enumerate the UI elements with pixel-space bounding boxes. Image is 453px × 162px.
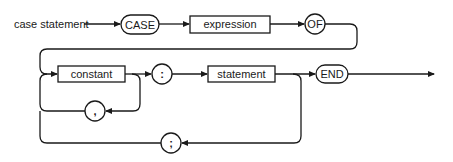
statement-label: statement: [217, 68, 265, 80]
of-keyword-label: OF: [307, 18, 323, 30]
case-keyword-node: CASE: [121, 15, 159, 34]
syntax-diagram: case statement CASE expression OF consta…: [0, 0, 453, 162]
case-keyword-label: CASE: [125, 19, 155, 31]
semicolon-loop-line: [182, 74, 301, 143]
constant-label: constant: [71, 68, 113, 80]
expression-node: expression: [190, 16, 270, 33]
diagram-title: case statement: [14, 18, 89, 30]
comma-label: ,: [93, 105, 96, 117]
end-keyword-label: END: [320, 68, 343, 80]
expression-label: expression: [203, 18, 256, 30]
semicolon-node: ;: [161, 133, 181, 153]
colon-node: :: [152, 64, 172, 84]
constant-node: constant: [58, 66, 125, 82]
end-keyword-node: END: [316, 65, 348, 83]
semicolon-label: ;: [169, 137, 173, 149]
colon-label: :: [160, 68, 164, 80]
of-keyword-node: OF: [305, 14, 325, 34]
statement-node: statement: [208, 66, 275, 82]
comma-node: ,: [85, 101, 105, 121]
